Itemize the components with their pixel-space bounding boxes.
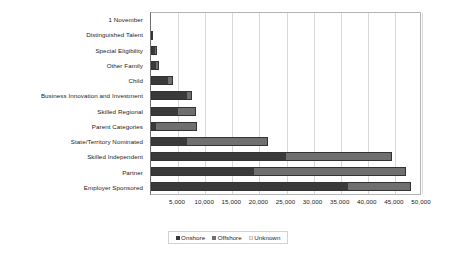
bar-segment-onshore <box>152 168 254 175</box>
bars-layer <box>151 13 420 194</box>
bar-row <box>151 182 420 191</box>
category-label: Child <box>0 77 148 84</box>
category-axis: 1 NovemberDistinguished TalentSpecial El… <box>0 12 148 195</box>
x-tick-label: 5,000 <box>169 198 185 205</box>
bar-row <box>151 152 420 161</box>
category-label: Skilled Regional <box>0 108 148 115</box>
legend-label: Onshore <box>181 234 205 241</box>
bar-row <box>151 16 420 25</box>
bar-segment-onshore <box>152 183 348 190</box>
category-label: State/Territory Nominated <box>0 138 148 145</box>
bar-row <box>151 31 420 40</box>
bar-stack <box>151 91 192 100</box>
bar-segment-offshore <box>348 183 410 190</box>
bar-stack <box>151 107 196 116</box>
category-label: Skilled Independent <box>0 153 148 160</box>
bar-stack <box>151 137 268 146</box>
bar-row <box>151 61 420 70</box>
bar-segment-offshore <box>286 153 391 160</box>
bar-segment-offshore <box>178 108 195 115</box>
bar-row <box>151 107 420 116</box>
bar-stack <box>151 76 173 85</box>
legend-label: Unknown <box>254 234 280 241</box>
bar-segment-onshore <box>152 153 286 160</box>
category-label: Parent Categories <box>0 123 148 130</box>
plot-area <box>150 12 421 195</box>
chart-legend: OnshoreOffshoreUnknown <box>168 231 288 244</box>
category-label: 1 November <box>0 16 148 23</box>
legend-entry[interactable]: Offshore <box>212 234 242 241</box>
stacked-bar-chart: 1 NovemberDistinguished TalentSpecial El… <box>0 0 451 259</box>
bar-segment-onshore <box>152 138 187 145</box>
bar-segment-offshore <box>168 77 171 84</box>
bar-segment-offshore <box>155 47 156 54</box>
bar-stack <box>151 31 153 40</box>
x-tick-label: 15,000 <box>222 198 242 205</box>
value-axis: 5,00010,00015,00020,00025,00030,00035,00… <box>150 196 421 210</box>
legend-entry[interactable]: Unknown <box>249 234 281 241</box>
bar-stack <box>151 152 392 161</box>
bar-segment-onshore <box>152 77 168 84</box>
bar-row <box>151 122 420 131</box>
bar-segment-offshore <box>187 138 267 145</box>
category-label: Partner <box>0 169 148 176</box>
legend-swatch-icon <box>249 236 253 240</box>
bar-row <box>151 91 420 100</box>
bar-stack <box>151 182 411 191</box>
bar-row <box>151 76 420 85</box>
x-tick-label: 50,000 <box>411 198 431 205</box>
legend-swatch-icon <box>212 236 216 240</box>
bar-stack <box>151 122 197 131</box>
x-tick-label: 30,000 <box>303 198 323 205</box>
bar-row <box>151 46 420 55</box>
bar-segment-offshore <box>187 92 191 99</box>
bar-segment-onshore <box>152 92 187 99</box>
bar-stack <box>151 61 159 70</box>
x-tick-label: 20,000 <box>249 198 269 205</box>
category-label: Distinguished Talent <box>0 31 148 38</box>
legend-swatch-icon <box>176 236 180 240</box>
x-tick-label: 40,000 <box>357 198 377 205</box>
x-tick-label: 45,000 <box>384 198 404 205</box>
bar-segment-onshore <box>152 108 178 115</box>
bar-segment-offshore <box>156 123 196 130</box>
bar-segment-offshore <box>254 168 405 175</box>
category-label: Employer Sponsored <box>0 184 148 191</box>
legend-entry[interactable]: Onshore <box>176 234 206 241</box>
gridline <box>422 13 423 194</box>
category-label: Business Innovation and Investment <box>0 92 148 99</box>
bar-row <box>151 167 420 176</box>
bar-segment-offshore <box>156 62 157 69</box>
bar-stack <box>151 46 157 55</box>
bar-row <box>151 137 420 146</box>
legend-label: Offshore <box>218 234 242 241</box>
x-tick-label: 35,000 <box>330 198 350 205</box>
x-tick-label: 10,000 <box>194 198 214 205</box>
category-label: Special Eligibility <box>0 47 148 54</box>
category-label: Other Family <box>0 62 148 69</box>
x-tick-label: 25,000 <box>276 198 296 205</box>
bar-stack <box>151 167 406 176</box>
